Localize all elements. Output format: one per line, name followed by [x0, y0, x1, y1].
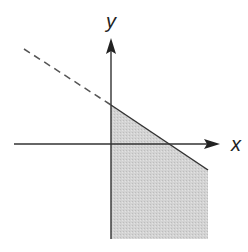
- y-axis-label: y: [104, 10, 117, 32]
- inequality-graph: x y: [0, 0, 248, 252]
- boundary-line-dashed: [24, 49, 111, 105]
- shaded-region: [111, 105, 208, 239]
- x-axis-label: x: [230, 133, 242, 155]
